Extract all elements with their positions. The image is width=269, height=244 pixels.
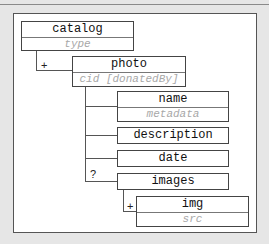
node-photo[interactable]: photo cid [donatedBy] [72,56,186,87]
node-photo-name: photo [73,57,185,72]
connector-images-img-v [123,189,124,212]
node-img-attr: src [137,212,248,227]
node-img[interactable]: img src [136,196,249,227]
node-date-name: date [118,151,228,166]
img-cardinality: + [127,200,133,212]
connector-catalog-photo-v [36,50,37,71]
connector-photo-images-h [85,181,117,182]
node-img-name: img [137,197,248,212]
connector-photo-date-h [85,158,117,159]
connector-photo-name-h [85,106,117,107]
top-border-line [0,4,269,5]
node-description[interactable]: description [117,127,229,144]
node-images-name: images [118,174,228,189]
connector-photo-description-h [85,135,117,136]
node-catalog[interactable]: catalog type [21,21,134,51]
node-images[interactable]: images [117,173,229,190]
node-catalog-name: catalog [22,22,133,37]
node-catalog-attr: type [22,37,133,52]
connector-photo-children-v [85,86,86,182]
node-name[interactable]: name metadata [117,91,229,122]
node-date[interactable]: date [117,150,229,167]
node-description-name: description [118,128,228,143]
node-photo-attr: cid [donatedBy] [73,72,185,87]
photo-cardinality: + [41,59,47,71]
images-cardinality: ? [90,168,96,180]
node-name-attr: metadata [118,107,228,122]
node-name-name: name [118,92,228,107]
